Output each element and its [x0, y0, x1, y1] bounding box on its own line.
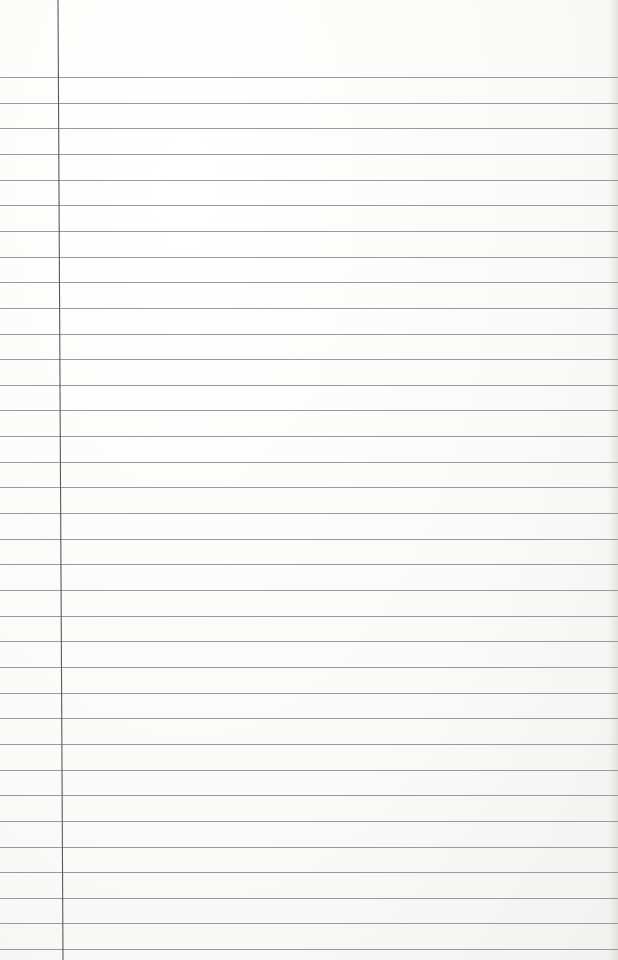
margin-line: [0, 0, 618, 960]
lined-paper-page: [0, 0, 618, 960]
